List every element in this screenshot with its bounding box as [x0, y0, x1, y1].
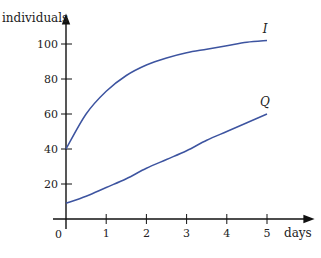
y-tick-label: 20 — [44, 178, 58, 191]
curve-q — [66, 114, 267, 203]
x-tick-label: 5 — [264, 227, 271, 240]
curve-label-q: Q — [260, 95, 270, 109]
y-tick-label: 100 — [37, 38, 58, 51]
y-tick-label: 60 — [44, 108, 58, 121]
curve-i — [66, 41, 267, 150]
y-axis-label: individuals — [2, 11, 68, 25]
curves: IQ — [66, 22, 270, 204]
axes — [53, 19, 309, 229]
x-axis-label: days — [284, 226, 312, 240]
y-tick-label: 40 — [44, 143, 58, 156]
x-tick-label: 3 — [183, 227, 190, 240]
y-tick-label: 80 — [44, 73, 58, 86]
x-tick-label: 4 — [223, 227, 230, 240]
x-tick-label: 2 — [143, 227, 150, 240]
origin-label: 0 — [55, 228, 62, 241]
chart: 1234520406080100 IQ individuals days 0 — [0, 0, 321, 258]
x-tick-label: 1 — [103, 227, 110, 240]
curve-label-i: I — [262, 22, 268, 36]
